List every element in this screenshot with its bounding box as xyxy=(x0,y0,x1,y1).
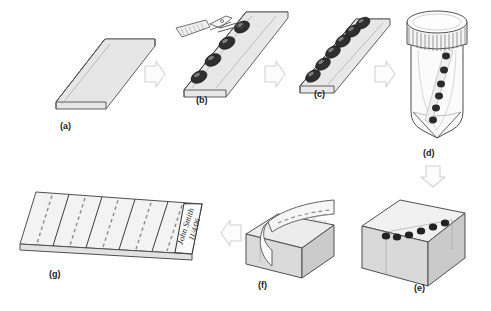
panel-f xyxy=(238,192,348,287)
arrow-c-to-d xyxy=(372,58,398,90)
panel-d-label: (d) xyxy=(423,148,435,158)
capped-tube-drawing xyxy=(401,4,473,154)
panel-e xyxy=(352,188,477,293)
sectioning-block-drawing xyxy=(238,192,348,287)
panel-c-label: (c) xyxy=(314,89,325,99)
figure-canvas: (a) xyxy=(0,0,491,311)
arrow-f-to-g xyxy=(218,217,244,249)
panel-g-label: (g) xyxy=(49,269,61,279)
panel-a-label: (a) xyxy=(60,121,71,131)
arrow-d-to-e xyxy=(417,163,449,190)
embedded-block-drawing xyxy=(352,188,477,293)
panel-g: John Smith 11/4/06 xyxy=(14,182,214,277)
arrow-b-to-c xyxy=(262,58,288,90)
panel-f-label: (f) xyxy=(258,280,267,290)
labelled-slide-drawing: John Smith 11/4/06 xyxy=(14,182,214,277)
arrow-a-to-b xyxy=(142,58,168,90)
panel-d xyxy=(401,4,473,154)
panel-e-label: (e) xyxy=(414,283,425,293)
panel-b-label: (b) xyxy=(196,95,208,105)
